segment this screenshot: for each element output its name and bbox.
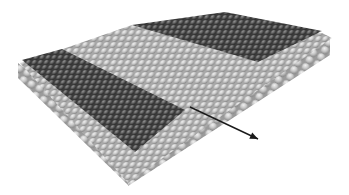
lattice-illustration (0, 0, 349, 195)
lattice-regions (18, 12, 332, 186)
atomic-slab-figure (0, 0, 349, 195)
